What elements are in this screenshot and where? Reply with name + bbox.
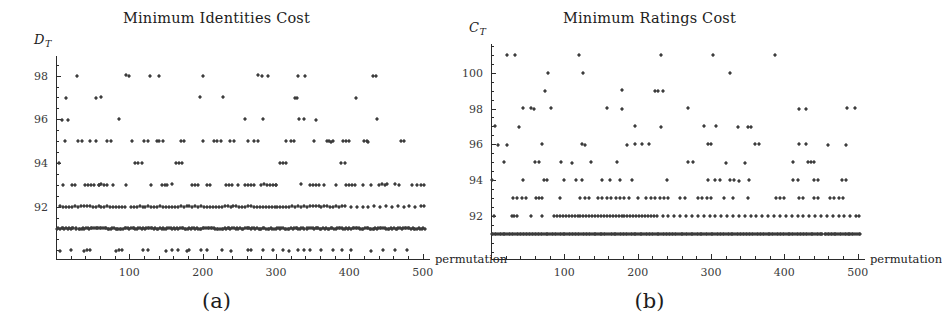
y-axis-tick-label: 92 bbox=[433, 210, 483, 223]
scatter-point bbox=[707, 213, 711, 217]
scatter-point bbox=[778, 214, 782, 218]
scatter-point bbox=[659, 53, 663, 57]
x-axis-minor-tick bbox=[623, 256, 624, 259]
x-axis-tick-label: 400 bbox=[339, 266, 360, 279]
scatter-point bbox=[528, 213, 532, 217]
scatter-point bbox=[807, 214, 811, 218]
scatter-point bbox=[537, 160, 541, 164]
x-axis-major-tick bbox=[423, 254, 424, 259]
scatter-point bbox=[644, 196, 648, 200]
x-axis-minor-tick bbox=[261, 256, 262, 259]
scatter-point bbox=[492, 214, 496, 218]
x-axis-minor-tick bbox=[115, 256, 116, 259]
scatter-point bbox=[349, 205, 353, 209]
scatter-point bbox=[372, 204, 376, 208]
y-axis-minor-tick bbox=[491, 252, 494, 253]
scatter-point bbox=[148, 74, 152, 78]
scatter-point bbox=[117, 117, 121, 121]
scatter-point bbox=[633, 142, 637, 146]
scatter-point bbox=[660, 89, 664, 93]
x-axis-minor-tick bbox=[550, 256, 551, 259]
x-axis-minor-tick bbox=[799, 256, 800, 259]
scatter-point bbox=[549, 106, 553, 110]
scatter-point bbox=[232, 139, 236, 143]
panel-b: Minimum Ratings Cost CT 1002003004005009… bbox=[433, 0, 866, 315]
x-axis-minor-tick bbox=[828, 256, 829, 259]
x-axis-minor-tick bbox=[843, 256, 844, 259]
scatter-point bbox=[831, 214, 835, 218]
scatter-point bbox=[655, 214, 659, 218]
scatter-point bbox=[600, 178, 604, 182]
scatter-point bbox=[513, 53, 517, 57]
scatter-point bbox=[221, 95, 225, 99]
scatter-point bbox=[381, 248, 385, 252]
x-axis-major-tick bbox=[276, 254, 277, 259]
x-axis-tick-label: 300 bbox=[701, 266, 722, 279]
scatter-point bbox=[515, 196, 519, 200]
scatter-point bbox=[246, 139, 250, 143]
x-axis-minor-tick bbox=[291, 256, 292, 259]
scatter-point bbox=[825, 214, 829, 218]
scatter-point bbox=[784, 214, 788, 218]
scatter-point bbox=[772, 213, 776, 217]
y-axis-minor-tick bbox=[56, 239, 59, 240]
x-axis-tick-label: 100 bbox=[554, 266, 575, 279]
scatter-point bbox=[540, 196, 544, 200]
scatter-point bbox=[540, 142, 544, 146]
x-axis-tick-label: 400 bbox=[774, 266, 795, 279]
x-axis-minor-tick bbox=[740, 256, 741, 259]
panel-b-x-axis-label: permutation bbox=[870, 252, 942, 266]
scatter-point bbox=[737, 178, 741, 182]
x-axis-major-tick bbox=[858, 254, 859, 259]
x-axis-minor-tick bbox=[379, 256, 380, 259]
scatter-point bbox=[176, 248, 180, 252]
scatter-point bbox=[845, 106, 849, 110]
x-axis-minor-tick bbox=[247, 256, 248, 259]
y-axis-minor-tick bbox=[491, 153, 494, 154]
scatter-point bbox=[407, 204, 411, 208]
scatter-point bbox=[347, 139, 351, 143]
scatter-point bbox=[343, 161, 347, 165]
scatter-point bbox=[496, 142, 500, 146]
scatter-point bbox=[355, 205, 359, 209]
scatter-point bbox=[246, 204, 250, 208]
x-axis-minor-tick bbox=[696, 256, 697, 259]
scatter-point bbox=[369, 183, 373, 187]
y-axis-tick-label: 94 bbox=[433, 174, 483, 187]
scatter-point bbox=[791, 178, 795, 182]
scatter-point bbox=[731, 214, 735, 218]
scatter-point bbox=[728, 71, 732, 75]
scatter-point bbox=[682, 196, 686, 200]
scatter-point bbox=[261, 117, 265, 121]
scatter-point bbox=[813, 214, 817, 218]
scatter-point bbox=[375, 117, 379, 121]
scatter-point bbox=[401, 204, 405, 208]
panel-a: Minimum Identities Cost DT 1002003004005… bbox=[0, 0, 433, 315]
scatter-point bbox=[73, 183, 77, 187]
scatter-point bbox=[88, 139, 92, 143]
scatter-point bbox=[562, 178, 566, 182]
scatter-point bbox=[587, 196, 591, 200]
x-axis-major-tick bbox=[129, 254, 130, 259]
scatter-point bbox=[198, 95, 202, 99]
scatter-point bbox=[505, 143, 509, 147]
scatter-point bbox=[691, 160, 695, 164]
scatter-point bbox=[105, 183, 109, 187]
y-axis-major-tick bbox=[491, 73, 496, 74]
x-axis-minor-tick bbox=[770, 256, 771, 259]
scatter-point bbox=[199, 248, 203, 252]
scatter-point bbox=[517, 125, 521, 129]
scatter-point bbox=[736, 124, 740, 128]
scatter-point bbox=[316, 183, 320, 187]
scatter-point bbox=[826, 142, 830, 146]
x-axis-major-tick bbox=[564, 254, 565, 259]
y-axis-minor-tick bbox=[491, 225, 494, 226]
scatter-point bbox=[672, 214, 676, 218]
scatter-point bbox=[743, 214, 747, 218]
scatter-point bbox=[64, 96, 68, 100]
scatter-point bbox=[581, 71, 585, 75]
scatter-point bbox=[659, 125, 663, 129]
y-axis-minor-tick bbox=[56, 196, 59, 197]
scatter-point bbox=[281, 248, 285, 252]
scatter-point bbox=[748, 214, 752, 218]
